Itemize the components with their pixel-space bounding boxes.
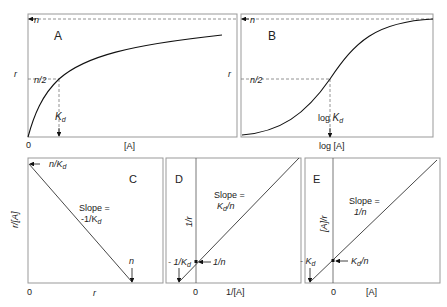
panel-b-logkd: log Kd <box>318 112 344 124</box>
panel-e-origin: 0 <box>331 287 336 297</box>
panel-a-origin: 0 <box>26 140 31 150</box>
panel-c-ylabel: r/[A] <box>10 211 20 228</box>
panel-a: A n n/2 Kd r 0 [A] <box>14 14 237 151</box>
panel-c-origin: 0 <box>27 287 32 297</box>
panel-d: D Slope = Kd/n - 1/Kd 1/n 1/r 0 1/[A] <box>166 158 301 297</box>
panel-b-ylabel: r <box>228 69 232 79</box>
panel-e-x-intercept: - Kd <box>300 256 317 267</box>
panel-d-y-intercept: 1/n <box>213 257 226 267</box>
panel-c: C n/Kd n Slope = -1/Kd r/[A] 0 r <box>10 158 163 298</box>
panel-b-tick-n: n <box>250 15 255 25</box>
binding-plots-figure: A n n/2 Kd r 0 [A] B n n/2 log Kd r log … <box>0 0 447 307</box>
panel-d-y-intercept-point <box>195 260 198 263</box>
panel-e-y-intercept: Kd/n <box>351 256 368 267</box>
panel-d-xlabel: 1/[A] <box>226 287 245 297</box>
panel-b-letter: B <box>268 29 276 43</box>
panel-d-lineweaver-burk-line <box>179 158 299 282</box>
panel-d-ylabel: 1/r <box>184 215 194 227</box>
panel-c-y-intercept: n/Kd <box>49 159 68 170</box>
panel-d-slope-line1: Slope = <box>214 190 245 200</box>
panel-a-letter: A <box>54 29 62 43</box>
panel-e: E Slope = 1/n - Kd Kd/n [A]/r 0 [A] <box>300 158 440 297</box>
panel-c-xlabel: r <box>93 288 97 298</box>
panel-b: B n n/2 log Kd r log [A] <box>228 14 433 151</box>
panel-e-slope-line1: Slope = <box>349 196 380 206</box>
panel-a-xlabel: [A] <box>124 141 135 151</box>
panel-b-tick-half: n/2 <box>250 75 263 85</box>
panel-a-tick-half: n/2 <box>34 75 47 85</box>
panel-e-xlabel: [A] <box>366 287 377 297</box>
panel-e-hanes-woolf-line <box>310 160 437 282</box>
panel-a-ylabel: r <box>14 69 18 79</box>
panel-e-y-intercept-point <box>332 259 335 262</box>
panel-d-slope-line2: Kd/n <box>217 201 234 212</box>
panel-e-slope-line2: 1/n <box>354 207 367 217</box>
panel-d-origin: 0 <box>193 287 198 297</box>
panel-b-xlabel: log [A] <box>319 141 345 151</box>
panel-d-letter: D <box>175 173 183 185</box>
panel-c-slope-line1: Slope = <box>79 203 110 213</box>
panel-a-tick-n: n <box>34 15 39 25</box>
panel-e-letter: E <box>313 173 320 185</box>
panel-c-x-intercept: n <box>129 256 134 266</box>
panel-c-letter: C <box>129 173 137 185</box>
panel-a-kd: Kd <box>55 111 67 123</box>
panel-c-slope-line2: -1/Kd <box>81 214 103 225</box>
panel-d-x-intercept: - 1/Kd <box>168 257 192 268</box>
panel-e-ylabel: [A]/r <box>319 214 329 233</box>
